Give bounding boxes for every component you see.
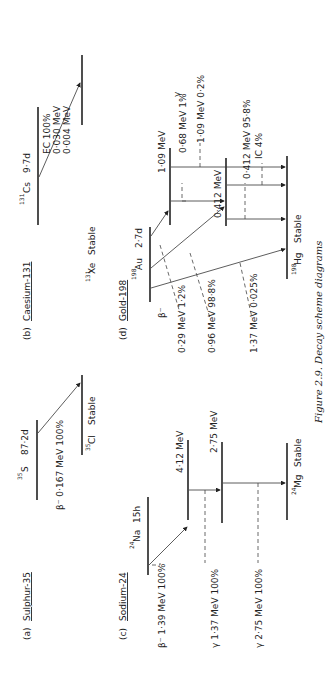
level-412-label: 4·12 MeV [175, 430, 185, 473]
hg198-stable: Stable [293, 214, 303, 243]
cl35-stable: Stable [87, 396, 97, 425]
cl35-mass: 35 [84, 443, 91, 451]
level-275-label: 2·75 MeV [209, 410, 219, 453]
panel-c-title: Sodium-24 [118, 572, 128, 621]
cs131-line-3: 0·004 MeV [62, 105, 72, 154]
hg198-mass: 198 [290, 263, 297, 275]
na24-mass: 24 [128, 541, 135, 549]
gamma-line-4: IC 4% [254, 132, 264, 159]
na24-gamma2-label: γ 2·75 MeV 100% [254, 568, 264, 648]
decay-scheme-figure: (a) Sulphur-35 35 S 87·2d 35 Cl Stable β… [0, 0, 331, 673]
na24-symbol: Na [132, 530, 142, 542]
panel-c-prefix: (c) [118, 628, 128, 640]
gamma-line-3: 0·412 MeV 95·8% [242, 99, 252, 179]
beta-header: β⁻ [157, 307, 167, 318]
cl35-symbol: Cl [87, 435, 97, 444]
cs131-mass: 131 [18, 193, 25, 205]
cs131-line-1: EC 100% [42, 113, 52, 154]
cs131-symbol: Cs [22, 182, 32, 193]
beta-029-arrow [151, 211, 168, 236]
panel-a-prefix: (a) [22, 627, 32, 640]
panel-d-prefix: (d) [118, 327, 128, 340]
cs131-halflife: 9·7d [22, 153, 32, 173]
panel-d-title: Gold-198 [118, 280, 128, 321]
panel-b-title: Caesium-131 [22, 262, 32, 321]
level-0412-label: 0·412 MeV [213, 169, 223, 218]
s35-mass: 35 [16, 472, 23, 480]
beta-096-arrow [151, 207, 224, 268]
na24-halflife: 15h [132, 506, 142, 523]
mg24-symbol: Mg [293, 475, 303, 488]
mg24-stable: Stable [293, 438, 303, 467]
mg24-mass: 24 [290, 487, 297, 495]
na24-beta-arrow [149, 527, 187, 565]
s35-symbol: S [20, 466, 30, 472]
na24-gamma1-label: γ 1·37 MeV 100% [210, 568, 220, 648]
panel-sodium-24: (c) Sodium-24 24 Na 15h 4·12 MeV 2·75 Me… [118, 410, 303, 648]
au198-symbol: Au [134, 258, 144, 270]
au198-mass: 198 [130, 268, 137, 280]
xe131-stable: Stable [87, 226, 97, 255]
gamma1-leader-d [182, 183, 186, 201]
s35-halflife: 87·2d [20, 429, 30, 455]
panel-gold-198: (d) Gold-198 198 Au 2·7d 1·09 MeV 0·412 … [118, 74, 303, 353]
figure-caption: Figure 2.9. Decay scheme diagrams [313, 241, 324, 424]
na24-beta-label: β⁻ 1·39 MeV 100% [157, 563, 167, 648]
panel-b-prefix: (b) [22, 327, 32, 340]
panel-sulphur-35: (a) Sulphur-35 35 S 87·2d 35 Cl Stable β… [16, 375, 97, 640]
beta-line-3: 1·37 MeV 0·025% [249, 273, 259, 353]
panel-caesium-131: (b) Caesium-131 131 Cs 9·7d 131 Xe Stabl… [18, 55, 97, 340]
level-109-label: 1·09 MeV [157, 130, 167, 173]
gamma-line-2: 1·09 MeV 0·2% [196, 74, 206, 143]
beta-line-1: 0·29 MeV 1·2% [177, 284, 187, 353]
cs131-line-2: 0·030 MeV [52, 105, 62, 154]
gamma-line-1: 0·68 MeV 1% [178, 93, 188, 153]
xe131-symbol: Xe [87, 262, 97, 274]
s35-beta-label: β⁻ 0·167 MeV 100% [55, 420, 65, 510]
hg198-symbol: Hg [293, 253, 303, 265]
beta-line-2: 0·96 MeV 98·8% [207, 279, 217, 353]
au198-halflife: 2·7d [134, 228, 144, 248]
panel-a-title: Sulphur-35 [22, 572, 32, 621]
